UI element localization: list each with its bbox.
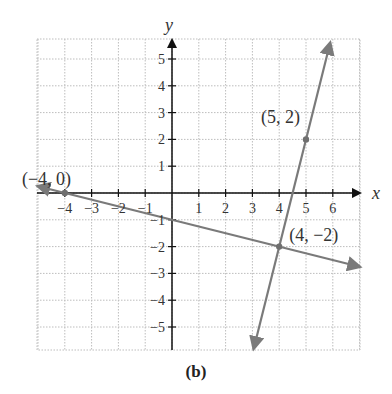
y-tick-label: 3 bbox=[158, 106, 165, 121]
x-tick-label: 1 bbox=[195, 201, 202, 216]
x-axis-label: x bbox=[371, 183, 380, 203]
line-steep bbox=[254, 43, 330, 349]
y-axis-label: y bbox=[163, 15, 173, 35]
y-tick-label: 2 bbox=[158, 132, 165, 147]
figure-caption: (b) bbox=[0, 362, 392, 382]
x-tick-label: 6 bbox=[329, 201, 336, 216]
point-marker bbox=[62, 190, 68, 196]
point-label: (5, 2) bbox=[261, 107, 300, 128]
x-tick-label: 5 bbox=[303, 201, 310, 216]
x-tick-label: −4 bbox=[57, 201, 72, 216]
y-tick-label: 1 bbox=[158, 159, 165, 174]
point-marker bbox=[276, 243, 282, 249]
y-tick-label: −3 bbox=[150, 266, 165, 281]
x-tick-label: 2 bbox=[222, 201, 229, 216]
x-tick-label: 4 bbox=[276, 201, 283, 216]
x-tick-label: −3 bbox=[84, 201, 99, 216]
point-label: (−4, 0) bbox=[22, 169, 71, 190]
labels: xy−4−3−2−112345654321−1−2−3−4−5(−4, 0)(5… bbox=[22, 15, 380, 335]
y-tick-label: 5 bbox=[158, 52, 165, 67]
y-tick-label: −5 bbox=[150, 320, 165, 335]
x-tick-label: −2 bbox=[111, 201, 126, 216]
point-marker bbox=[303, 136, 309, 142]
y-tick-label: 4 bbox=[158, 79, 165, 94]
x-tick-label: 3 bbox=[249, 201, 256, 216]
y-tick-label: −4 bbox=[150, 293, 165, 308]
y-tick-label: −1 bbox=[150, 213, 165, 228]
y-tick-label: −2 bbox=[150, 240, 165, 255]
coordinate-plane-figure: xy−4−3−2−112345654321−1−2−3−4−5(−4, 0)(5… bbox=[0, 0, 392, 394]
point-label: (4, −2) bbox=[289, 225, 338, 246]
